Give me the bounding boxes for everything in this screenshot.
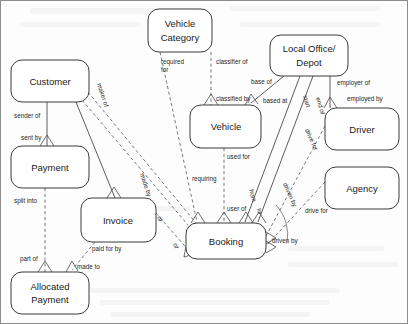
entity-booking-label: Booking [209, 236, 243, 247]
entity-driver-label: Driver [349, 124, 374, 135]
label-driven-by-agency: driven by [272, 237, 298, 245]
label-made-by: made by [138, 172, 153, 198]
label-maker-of: maker of [96, 82, 110, 108]
entity-invoice-label: Invoice [103, 215, 133, 226]
label-classified-by: classified by [216, 95, 251, 103]
entity-allocated-payment-line2: Payment [31, 294, 69, 305]
entity-agency[interactable]: Agency [325, 167, 399, 209]
entity-invoice[interactable]: Invoice [81, 198, 156, 242]
label-required-for: for [161, 66, 168, 73]
label-classifier-of: classifier of [216, 58, 248, 65]
label-drive-for-agency: drive for [305, 207, 328, 214]
entity-driver[interactable]: Driver [325, 108, 399, 150]
label-sender-of: sender of [14, 112, 41, 119]
label-drive-for-driver: drive for [304, 128, 320, 152]
entity-vehicle-label: Vehicle [211, 121, 242, 132]
label-made-to: made to [77, 263, 100, 270]
entities: Customer Payment Allocated Payment Invoi… [11, 9, 399, 314]
entity-local-office-depot[interactable]: Local Office/ Depot [270, 35, 348, 76]
label-employer-of: employer of [337, 79, 370, 87]
label-of-invoice: of [156, 215, 164, 222]
label-of-booking: of [172, 242, 180, 249]
entity-allocated-payment-line1: Allocated [30, 281, 69, 292]
entity-local-office-line1: Local Office/ [283, 43, 336, 54]
entity-agency-label: Agency [346, 183, 378, 194]
label-requiring: requiring [192, 175, 217, 183]
crowfoot-booking-from [239, 212, 253, 223]
diagram-canvas: Customer Payment Allocated Payment Invoi… [0, 0, 408, 324]
entity-customer[interactable]: Customer [11, 60, 89, 102]
label-used-for: used for [227, 153, 250, 160]
entity-booking[interactable]: Booking [186, 223, 266, 259]
label-based-at: based at [263, 97, 287, 104]
label-sent-by: sent by [21, 134, 42, 142]
entity-vehicle-category-line2: Category [161, 32, 200, 43]
entity-vehicle-category[interactable]: Vehicle Category [148, 9, 212, 52]
entity-vehicle[interactable]: Vehicle [190, 105, 261, 148]
label-employed-by: employed by [347, 95, 384, 103]
label-required: required [161, 58, 185, 66]
label-paid-for-by: paid for by [92, 245, 122, 253]
label-part-of: part of [20, 255, 38, 263]
entity-payment-label: Payment [31, 162, 69, 173]
entity-local-office-line2: Depot [296, 57, 322, 68]
entity-customer-label: Customer [29, 76, 70, 87]
label-end-of: end of [315, 96, 327, 115]
label-driven-by-driver: driven by [281, 182, 299, 209]
label-user-of: user of [227, 205, 247, 212]
er-diagram: Customer Payment Allocated Payment Invoi… [0, 0, 408, 324]
entity-vehicle-category-line1: Vehicle [165, 18, 196, 29]
crowfoot-driver-top [324, 97, 337, 108]
entity-payment[interactable]: Payment [11, 146, 89, 188]
entity-allocated-payment[interactable]: Allocated Payment [11, 272, 89, 314]
label-split-into: split into [14, 197, 38, 205]
label-base-of: base of [251, 78, 272, 85]
label-start: start [302, 94, 312, 108]
crowfoot-booking-cat [191, 212, 205, 223]
